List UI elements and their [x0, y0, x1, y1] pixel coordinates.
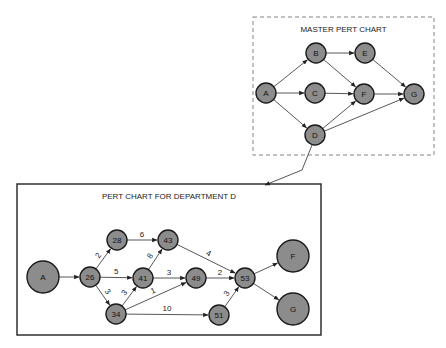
dept-node-F: F — [277, 240, 309, 272]
department-chart-title: PERT CHART FOR DEPARTMENT D — [102, 192, 236, 201]
node-label: C — [312, 89, 318, 98]
node-label: G — [411, 90, 417, 99]
node-label: 51 — [215, 311, 224, 320]
master-node-A: A — [256, 83, 276, 103]
node-label: 34 — [112, 310, 121, 319]
dept-edge-43-53 — [177, 244, 235, 273]
node-label: A — [263, 89, 269, 98]
node-label: 41 — [139, 274, 148, 283]
master-chart-frame — [253, 17, 434, 155]
dept-node-G: G — [277, 293, 309, 325]
node-label: F — [362, 90, 367, 99]
dept-node-26: 26 — [80, 267, 100, 287]
node-label: F — [291, 252, 296, 261]
department-pert-chart: PERT CHART FOR DEPARTMENT D 253683311042… — [17, 184, 321, 335]
master-node-G: G — [404, 84, 424, 104]
dept-edge-weight: 5 — [114, 267, 119, 276]
dept-edge-weight: 6 — [140, 230, 145, 239]
dept-node-43: 43 — [158, 230, 178, 250]
node-label: D — [312, 131, 318, 140]
dept-edge-weight: 8 — [145, 251, 155, 260]
dept-edge-weight: 4 — [205, 248, 213, 258]
node-label: G — [290, 305, 296, 314]
master-edge-C-F — [325, 93, 353, 94]
dept-node-49: 49 — [186, 268, 206, 288]
node-label: 53 — [241, 274, 250, 283]
master-edges — [274, 53, 406, 131]
master-chart-title: MASTER PERT CHART — [300, 25, 386, 34]
dept-node-28: 28 — [107, 230, 127, 250]
node-label: 26 — [86, 273, 95, 282]
dept-edge-53-F — [254, 263, 277, 274]
dept-edge-34-49 — [125, 283, 186, 310]
dept-edge-weight: 2 — [218, 268, 223, 277]
master-node-F: F — [354, 84, 374, 104]
master-node-E: E — [355, 43, 375, 63]
dept-edge-26-41 — [100, 277, 132, 278]
pert-diagram: MASTER PERT CHART ABCDEFG PERT CHART FOR… — [0, 0, 446, 348]
dept-edge-weight: 3 — [103, 287, 113, 296]
master-pert-chart: MASTER PERT CHART ABCDEFG — [253, 17, 434, 155]
dept-node-A: A — [27, 261, 59, 293]
dept-node-51: 51 — [209, 305, 229, 325]
master-edge-B-F — [324, 59, 356, 86]
node-label: A — [40, 273, 46, 282]
dept-node-34: 34 — [106, 304, 126, 324]
dept-edge-53-G — [253, 283, 278, 299]
dept-node-53: 53 — [235, 268, 255, 288]
master-edge-E-G — [373, 59, 406, 87]
dept-edge-weight: 10 — [163, 304, 172, 313]
dept-edge-weight: 3 — [222, 289, 232, 298]
dept-edge-weight: 3 — [167, 268, 172, 277]
master-node-D: D — [305, 125, 325, 145]
dept-edge-weight: 2 — [93, 250, 103, 259]
node-label: 43 — [164, 236, 173, 245]
dept-node-41: 41 — [133, 268, 153, 288]
master-node-B: B — [306, 43, 326, 63]
dept-edge-34-51 — [126, 314, 208, 315]
dept-edge-weight: 1 — [149, 285, 157, 295]
master-edge-A-D — [274, 100, 307, 128]
node-label: 49 — [192, 274, 201, 283]
node-label: 28 — [113, 236, 122, 245]
expansion-connector-line — [265, 145, 312, 185]
dept-edge-weight: 3 — [119, 288, 129, 297]
master-node-C: C — [305, 83, 325, 103]
master-edge-A-B — [274, 60, 308, 87]
node-label: E — [362, 49, 367, 58]
node-label: B — [313, 49, 318, 58]
master-edge-D-F — [323, 101, 356, 129]
